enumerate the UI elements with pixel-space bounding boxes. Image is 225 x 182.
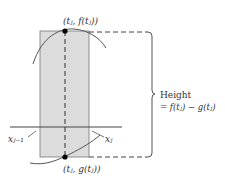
height-brace: [148, 32, 155, 157]
height-label: Height: [160, 90, 192, 100]
top-point-label: (tⱼ, f(tⱼ)): [63, 16, 99, 26]
left-tick-label: xⱼ₋₁: [8, 134, 24, 144]
area-between-curves-diagram: (tⱼ, f(tⱼ)) (tⱼ, g(tⱼ)) xⱼ₋₁ xⱼ Height =…: [0, 0, 225, 182]
right-tick-label: xⱼ: [105, 134, 113, 144]
height-formula: = f(tⱼ) − g(tⱼ): [160, 102, 216, 112]
top-point: [62, 28, 67, 33]
bottom-point-label: (tⱼ, g(tⱼ)): [63, 164, 101, 174]
left-tick-leader: [28, 131, 36, 137]
bottom-point: [62, 154, 67, 159]
